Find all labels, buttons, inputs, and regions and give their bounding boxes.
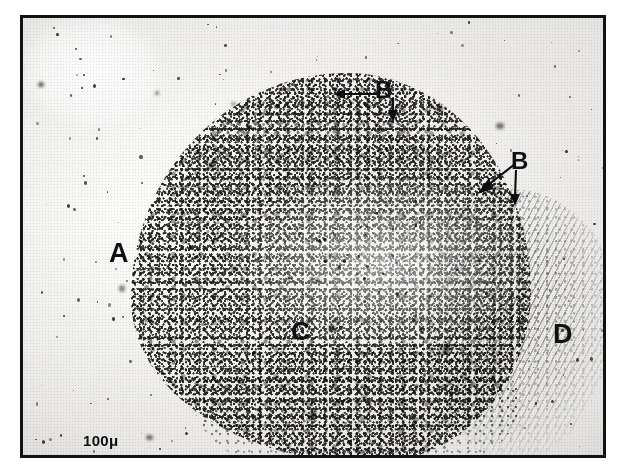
scale-bar-rule [83,457,129,458]
micrograph-figure: A B B C D 100μ [0,0,622,473]
region-label-a: A [109,240,129,267]
region-label-c: C [291,318,310,344]
region-label-b1: B [375,78,392,102]
scale-bar: 100μ [83,433,129,458]
region-label-d: D [553,321,573,348]
tissue-pale-lumen [23,18,159,122]
tissue-streaks-right [453,228,606,458]
scale-bar-cap-right [126,457,129,458]
region-label-b2: B [511,149,528,173]
scale-bar-label: 100μ [83,433,129,448]
scale-bar-cap-left [83,457,86,458]
micrograph-frame: A B B C D 100μ [20,15,606,458]
